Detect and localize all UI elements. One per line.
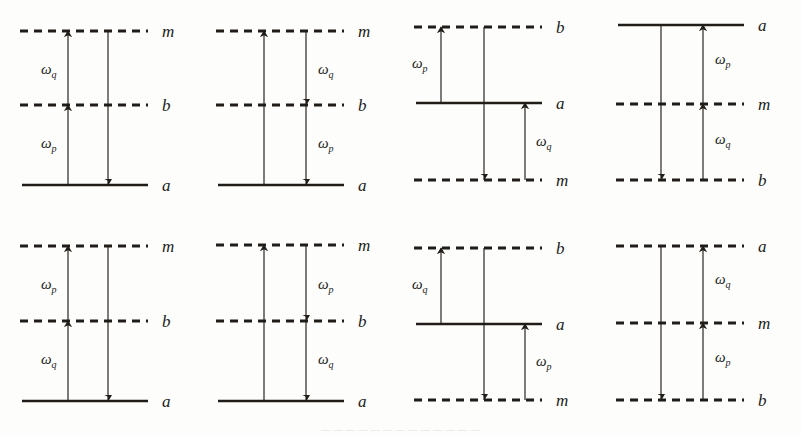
panel-7: bamωqωp — [394, 216, 594, 431]
level-label-m: m — [162, 22, 174, 41]
omega-p-label: ωp — [412, 55, 428, 74]
level-label-b: b — [358, 96, 367, 115]
level-label-a: a — [556, 315, 565, 334]
level-label-a: a — [556, 94, 565, 113]
omega-p-label: ωp — [318, 276, 334, 295]
level-label-a: a — [358, 392, 367, 411]
level-label-b: b — [162, 96, 171, 115]
scan-bleed-artifact: — — — — — — — — — — — — — — [0, 424, 801, 435]
level-label-b: b — [556, 18, 565, 37]
panel-1: mbaωqωp — [0, 0, 200, 215]
omega-p-label: ωp — [318, 135, 334, 154]
panel-3: bamωpωq — [394, 0, 594, 215]
panel-8: ambωqωp — [596, 216, 796, 431]
omega-q-label: ωq — [715, 271, 731, 290]
level-label-m: m — [758, 95, 770, 114]
omega-p-label: ωp — [715, 51, 731, 70]
omega-q-label: ωq — [536, 133, 552, 152]
level-label-m: m — [358, 22, 370, 41]
omega-q-label: ωq — [41, 351, 57, 370]
level-label-a: a — [358, 176, 367, 195]
panel-4: ambωpωq — [596, 0, 796, 215]
level-label-a: a — [162, 176, 171, 195]
level-label-b: b — [358, 312, 367, 331]
level-label-b: b — [556, 239, 565, 258]
omega-q-label: ωq — [41, 61, 57, 80]
omega-q-label: ωq — [318, 61, 334, 80]
level-label-b: b — [162, 312, 171, 331]
level-label-b: b — [758, 391, 767, 410]
omega-q-label: ωq — [715, 131, 731, 150]
level-label-a: a — [758, 237, 767, 256]
omega-p-label: ωp — [536, 353, 552, 372]
level-label-m: m — [758, 314, 770, 333]
level-label-b: b — [758, 171, 767, 190]
level-label-m: m — [556, 171, 568, 190]
level-label-a: a — [758, 16, 767, 35]
omega-p-label: ωp — [715, 349, 731, 368]
panel-2: mbaωqωp — [196, 0, 396, 215]
energy-level-diagram-figure: ambωqωpbamωqωpmbaωpωqmbaωpωqambωpωqbamωp… — [0, 0, 801, 435]
omega-p-label: ωp — [41, 276, 57, 295]
omega-p-label: ωp — [41, 135, 57, 154]
omega-q-label: ωq — [412, 276, 428, 295]
level-label-a: a — [162, 392, 171, 411]
level-label-m: m — [162, 237, 174, 256]
panel-6: mbaωpωq — [196, 216, 396, 431]
level-label-m: m — [358, 236, 370, 255]
omega-q-label: ωq — [318, 351, 334, 370]
level-label-m: m — [556, 391, 568, 410]
panel-5: mbaωpωq — [0, 216, 200, 431]
